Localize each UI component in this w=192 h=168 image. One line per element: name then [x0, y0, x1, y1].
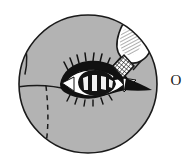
figure-label: O [171, 72, 182, 88]
illustration-figure: O [0, 0, 192, 168]
eye-drop-illustration-svg: O [0, 0, 192, 168]
